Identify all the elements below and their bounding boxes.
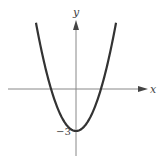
y-intercept-label: −3 [56,126,71,137]
y-axis-label: y [72,6,80,19]
x-axis-arrow-icon [138,86,148,92]
y-axis [73,20,79,156]
x-axis-label: x [150,83,157,96]
y-axis-arrow-icon [73,20,79,30]
x-axis [8,86,148,92]
parabola-graph: x y −3 [0,0,162,165]
